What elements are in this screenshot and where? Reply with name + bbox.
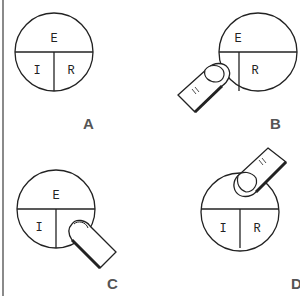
segment-r: R xyxy=(67,64,74,78)
segment-i: I xyxy=(33,64,40,78)
panel-label-a: A xyxy=(83,115,94,132)
svg-text:I: I xyxy=(35,221,42,235)
finger-icon xyxy=(234,148,286,197)
panel-label-d: D xyxy=(291,275,300,292)
svg-text:E: E xyxy=(52,189,59,203)
segment-e: E xyxy=(50,32,57,46)
finger-icon xyxy=(69,220,116,268)
panel-label-b: B xyxy=(270,115,281,132)
svg-text:E: E xyxy=(234,32,241,46)
circle-b: E R xyxy=(178,13,297,112)
finger-icon xyxy=(178,64,230,113)
diagram-canvas: E I R E R E I I xyxy=(0,0,300,296)
circle-a: E I R xyxy=(15,13,93,91)
svg-text:R: R xyxy=(253,222,260,236)
svg-text:R: R xyxy=(251,64,258,78)
svg-text:I: I xyxy=(219,222,226,236)
panel-label-c: C xyxy=(107,275,118,292)
circle-d: I R xyxy=(201,148,286,251)
circle-c: E I xyxy=(17,170,116,268)
